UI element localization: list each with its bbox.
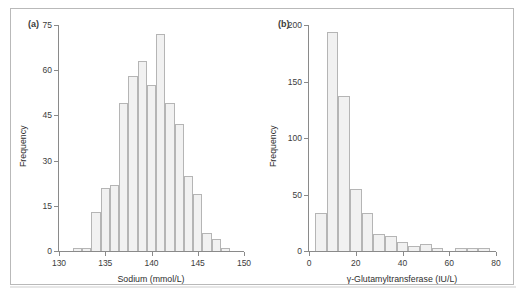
y-axis-tick-label: 0: [26, 247, 52, 255]
histogram-bar: [397, 242, 409, 251]
histogram-bar: [350, 189, 362, 251]
y-axis-tick: [304, 251, 308, 252]
y-axis-tick: [54, 206, 58, 207]
x-axis-tick: [449, 252, 450, 256]
y-axis-tick: [54, 115, 58, 116]
y-axis-tick-label: 60: [26, 66, 52, 74]
x-axis-tick: [403, 252, 404, 256]
x-axis-tick-label: 60: [434, 259, 464, 268]
panel-a-plot-area: 01530456075130135140145150: [58, 25, 244, 252]
figure-container: (a) Frequency 01530456075130135140145150…: [0, 0, 526, 301]
x-axis-tick-label: 135: [90, 259, 120, 268]
histogram-bar: [478, 248, 490, 251]
y-axis-tick: [54, 251, 58, 252]
x-axis-tick: [198, 252, 199, 256]
histogram-bar: [408, 246, 420, 251]
histogram-bar: [128, 76, 137, 251]
x-axis-tick: [244, 252, 245, 256]
histogram-bar: [156, 34, 165, 251]
histogram-bar: [420, 244, 432, 251]
histogram-bar: [315, 213, 327, 251]
panel-a-x-axis-label: Sodium (mmol/L): [38, 274, 264, 284]
histogram-bar: [221, 248, 230, 251]
histogram-bar: [432, 248, 444, 251]
x-axis-tick-label: 20: [341, 259, 371, 268]
panel-a: (a) Frequency 01530456075130135140145150…: [10, 8, 262, 285]
panel-b-x-axis-label: γ-Glutamyltransferase (IU/L): [288, 274, 516, 284]
y-axis-tick-label: 150: [276, 78, 302, 86]
x-axis-tick-label: 150: [229, 259, 259, 268]
y-axis-tick-label: 50: [276, 191, 302, 199]
histogram-bar: [184, 176, 193, 251]
histogram-bar: [147, 85, 156, 251]
histogram-bar: [73, 248, 82, 251]
y-axis-tick-label: 15: [26, 202, 52, 210]
histogram-bar: [110, 185, 119, 251]
x-axis-tick-label: 40: [388, 259, 418, 268]
x-axis-tick-label: 145: [183, 259, 213, 268]
x-axis-tick-label: 0: [294, 259, 324, 268]
y-axis-tick: [304, 138, 308, 139]
y-axis-tick-label: 45: [26, 111, 52, 119]
x-axis-tick: [105, 252, 106, 256]
histogram-bar: [91, 212, 100, 251]
x-axis-tick-label: 80: [481, 259, 511, 268]
panel-a-bars: [59, 25, 244, 251]
y-axis-tick: [54, 70, 58, 71]
histogram-bar: [82, 248, 91, 251]
y-axis-tick: [304, 195, 308, 196]
x-axis-tick: [309, 252, 310, 256]
histogram-bar: [193, 194, 202, 251]
panel-b-y-axis-label: Frequency: [268, 125, 278, 167]
histogram-bar: [202, 233, 211, 251]
y-axis-tick: [54, 161, 58, 162]
figure-frame-shadow: [10, 286, 516, 288]
histogram-bar: [138, 61, 147, 251]
histogram-bar: [362, 213, 374, 251]
y-axis-tick-label: 0: [276, 247, 302, 255]
histogram-bar: [373, 234, 385, 251]
panel-b-plot-area: 050100150200020406080: [308, 25, 496, 252]
x-axis-tick: [356, 252, 357, 256]
histogram-bar: [385, 236, 397, 251]
histogram-bar: [338, 96, 350, 251]
x-axis-tick: [59, 252, 60, 256]
y-axis-tick: [304, 82, 308, 83]
x-axis-tick: [152, 252, 153, 256]
histogram-bar: [165, 103, 174, 251]
y-axis-tick: [54, 25, 58, 26]
panel-b: (b) Frequency 050100150200020406080 γ-Gl…: [262, 8, 514, 285]
x-axis-tick-label: 140: [137, 259, 167, 268]
y-axis-tick-label: 30: [26, 157, 52, 165]
histogram-bar: [327, 32, 339, 251]
histogram-bar: [212, 239, 221, 251]
y-axis-tick-label: 75: [26, 21, 52, 29]
histogram-bar: [455, 248, 467, 251]
x-axis-tick: [496, 252, 497, 256]
histogram-bar: [467, 248, 479, 251]
x-axis-tick-label: 130: [44, 259, 74, 268]
histogram-bar: [175, 124, 184, 251]
histogram-bar: [119, 103, 128, 251]
histogram-bar: [101, 188, 110, 251]
y-axis-tick-label: 200: [276, 21, 302, 29]
panel-b-bars: [309, 25, 496, 251]
y-axis-tick-label: 100: [276, 134, 302, 142]
y-axis-tick: [304, 25, 308, 26]
